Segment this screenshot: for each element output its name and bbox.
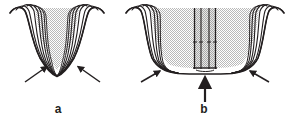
panel-a-left-indicator-arrow [25,67,47,83]
figure-root: a b [0,0,293,128]
panel-b-left-indicator-arrow [141,71,160,82]
panel-b [126,5,284,102]
panel-a-right-indicator-arrow [78,67,100,83]
panel-label-a: a [48,103,68,115]
inserted-tube [193,8,217,72]
panel-a [10,5,104,82]
panel-label-b: b [194,103,214,115]
panel-b-right-indicator-arrow [250,71,269,82]
figure-drawing [0,0,293,128]
tube-foot-shadow [196,70,214,72]
inserted-tube-lumen [195,8,216,68]
